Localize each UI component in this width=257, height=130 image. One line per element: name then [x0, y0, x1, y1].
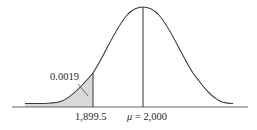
cutoff-label: 1,899.5: [75, 112, 107, 123]
mean-value: = 2,000: [132, 111, 167, 122]
mean-label: μ = 2,000: [127, 112, 167, 123]
normal-distribution-chart: 0.0019 1,899.5 μ = 2,000: [0, 0, 257, 130]
normal-curve: [25, 7, 233, 104]
probability-label: 0.0019: [50, 72, 79, 83]
